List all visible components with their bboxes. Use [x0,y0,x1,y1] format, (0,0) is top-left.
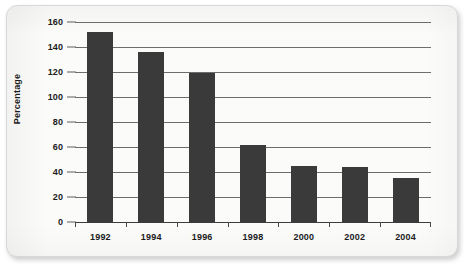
x-axis-tick-marks [75,222,431,228]
x-axis-tick-mark [177,222,178,227]
x-axis-tick-mark [329,222,330,227]
y-axis-tick-marks [7,22,81,222]
x-axis-tick-label: 2000 [293,232,314,242]
x-axis-tick-label: 2002 [344,232,365,242]
bar [393,178,419,222]
bar [87,32,113,222]
gridline [75,72,431,73]
x-axis-tick-mark [228,222,229,227]
x-axis-tick-mark [126,222,127,227]
x-axis-tick-label: 2004 [395,232,416,242]
x-axis-tick-label: 1996 [192,232,213,242]
x-axis-tick-label: 1994 [141,232,162,242]
bar [138,52,164,222]
x-axis-tick-mark [278,222,279,227]
x-axis-tick-labels: 1992199419961998200020022004 [75,232,431,246]
gridline [75,122,431,123]
bar [189,73,215,222]
bar [240,145,266,223]
gridline [75,97,431,98]
x-axis-tick-mark [75,222,76,227]
x-axis-tick-label: 1992 [90,232,111,242]
plot-area [75,22,431,222]
x-axis-tick-label: 1998 [243,232,264,242]
bar [291,166,317,222]
x-axis-tick-mark [430,222,431,227]
gridline [75,22,431,23]
bar [342,167,368,222]
x-axis-tick-mark [380,222,381,227]
chart-card: Percentage 020406080100120140160 1992199… [6,5,458,257]
gridline [75,47,431,48]
